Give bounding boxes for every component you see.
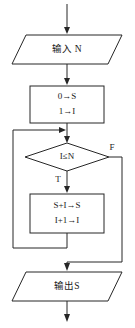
- init-node-line2: 1→I: [59, 106, 76, 116]
- connector-to-output: [64, 262, 70, 271]
- body-node-line1: S+I→S: [53, 200, 80, 210]
- body-node-line2: I+1→I: [55, 215, 80, 225]
- output-node-label: 输出S: [54, 280, 79, 291]
- output-node: 输出S: [12, 272, 122, 301]
- body-node: S+I→S I+1→I: [30, 194, 104, 233]
- connector-input-to-init: [64, 64, 70, 85]
- loop-back-path: [13, 127, 67, 248]
- init-node: 0→S 1→I: [30, 86, 104, 123]
- true-branch-label: T: [55, 174, 61, 184]
- connector-init-to-decision: [64, 123, 70, 143]
- decision-node: I≤N: [25, 143, 109, 171]
- true-branch: T: [55, 171, 70, 193]
- decision-node-label: I≤N: [60, 151, 75, 161]
- input-node: 输入 N: [12, 35, 122, 64]
- flowchart-canvas: 输入 N 0→S 1→I I≤N T: [0, 0, 135, 328]
- input-node-label: 输入 N: [52, 43, 81, 54]
- false-branch-label: F: [109, 142, 114, 152]
- exit-arrow: [64, 301, 70, 322]
- entry-arrow: [64, 4, 70, 34]
- flowchart-diagram: 输入 N 0→S 1→I I≤N T: [0, 0, 135, 328]
- init-node-line1: 0→S: [58, 91, 77, 101]
